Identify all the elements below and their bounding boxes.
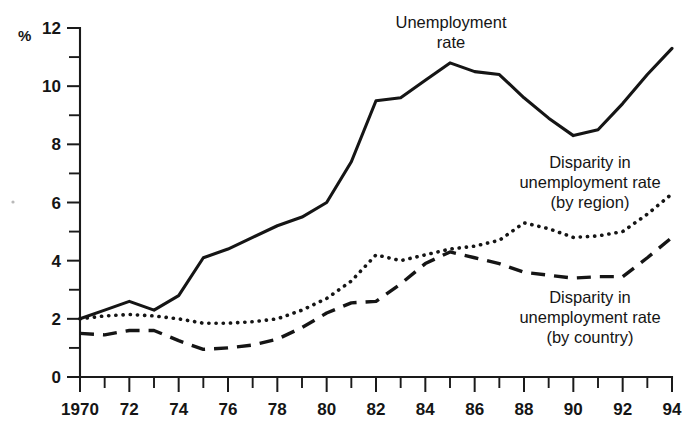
- y-tick-label: 6: [52, 194, 61, 213]
- y-tick-label: 4: [52, 252, 62, 271]
- annotation-line: Disparity in: [549, 288, 631, 306]
- annotation-line: Disparity in: [549, 153, 631, 171]
- annotation-line: (by region): [551, 193, 630, 211]
- y-tick-label: 10: [42, 77, 61, 96]
- annotation-line: Unemployment: [396, 13, 507, 31]
- y-axis-unit-label: %: [18, 27, 31, 44]
- unemployment-chart: 024681012 1970727476788082848688909294 U…: [0, 0, 693, 438]
- x-tick-label: 72: [120, 400, 139, 419]
- x-tick-label: 92: [613, 400, 632, 419]
- scan-speck: [11, 200, 14, 203]
- x-tick-label: 86: [465, 400, 484, 419]
- x-tick-label: 74: [169, 400, 188, 419]
- annotation-line: unemployment rate: [519, 173, 660, 191]
- x-tick-label: 76: [219, 400, 238, 419]
- annotation-line: unemployment rate: [519, 308, 660, 326]
- x-tick-label: 88: [515, 400, 534, 419]
- x-tick-label: 82: [367, 400, 386, 419]
- x-tick-label: 1970: [61, 400, 99, 419]
- annotation-line: rate: [437, 33, 465, 51]
- x-tick-label: 78: [268, 400, 287, 419]
- x-tick-label: 80: [317, 400, 336, 419]
- y-tick-label: 0: [52, 368, 61, 387]
- x-tick-label: 94: [663, 400, 682, 419]
- y-tick-label: 8: [52, 135, 61, 154]
- x-tick-label: 90: [564, 400, 583, 419]
- y-tick-label: 12: [42, 19, 61, 38]
- annotation-line: (by country): [546, 328, 633, 346]
- chart-background: [0, 0, 693, 438]
- chart-canvas: 024681012 1970727476788082848688909294 U…: [0, 0, 693, 438]
- x-tick-label: 84: [416, 400, 435, 419]
- y-tick-label: 2: [52, 310, 61, 329]
